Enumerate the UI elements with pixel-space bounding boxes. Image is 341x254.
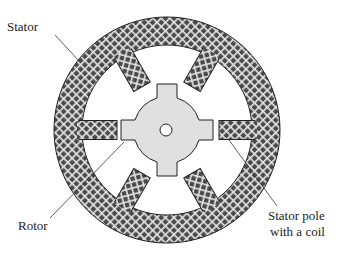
rotor [121, 84, 213, 176]
rotor-label: Rotor [18, 218, 48, 233]
stator-label: Stator [7, 19, 38, 34]
stator-pole-label-line1: Stator pole [268, 208, 325, 223]
rotor-shaft-hole [160, 124, 172, 136]
stator-leader-line [55, 35, 80, 62]
stator-pole-label-line2: with a coil [270, 224, 325, 239]
